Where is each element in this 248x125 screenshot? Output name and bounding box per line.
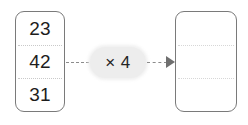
input-connector-line [66,62,89,63]
input-cell-value: 42 [29,52,51,71]
input-cell-value: 23 [29,19,51,38]
output-cell[interactable] [176,78,236,111]
output-cell[interactable] [176,12,236,45]
output-cell[interactable] [176,45,236,78]
input-cell: 23 [16,12,64,45]
arrow-head-icon [166,56,175,68]
diagram-canvas: 23 42 31 × 4 [0,0,248,125]
input-cell: 31 [16,78,64,111]
output-connector-line [147,62,167,63]
input-cell: 42 [16,45,64,78]
operator-badge: × 4 [90,47,146,78]
input-cell-value: 31 [29,85,51,104]
input-number-box: 23 42 31 [15,11,65,112]
output-number-box [175,11,237,112]
operator-label: × 4 [105,54,131,71]
